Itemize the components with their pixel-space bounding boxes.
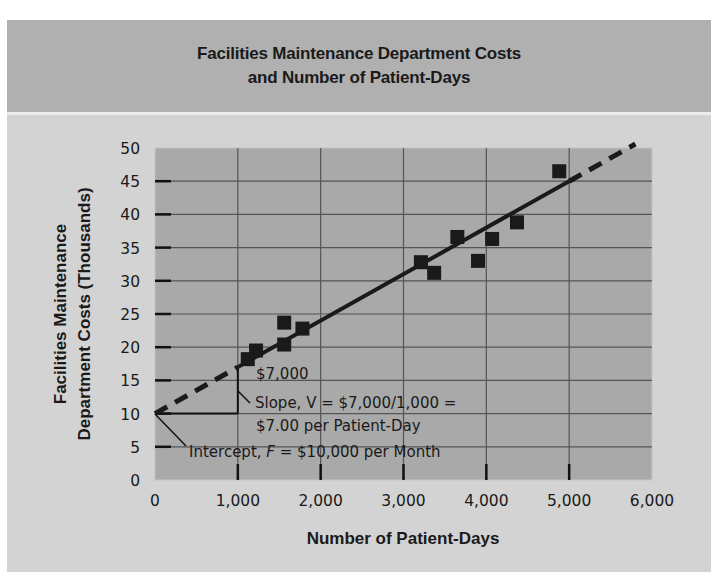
y-tick-label: 50 (120, 140, 140, 158)
data-point-marker (510, 215, 524, 229)
y-tick-label: 0 (130, 472, 140, 490)
x-tick-label: 2,000 (298, 492, 342, 510)
data-point-marker (427, 266, 441, 280)
y-tick-label: 25 (120, 306, 140, 324)
x-axis-tick-labels: 01,0002,0003,0004,0005,0006,000 (150, 492, 674, 510)
data-point-marker (249, 344, 263, 358)
data-point-marker (295, 322, 309, 336)
intercept-label: Intercept, F = $10,000 per Month (189, 443, 441, 461)
x-tick-label: 1,000 (216, 492, 260, 510)
scatter-chart: 05101520253035404550 01,0002,0003,0004,0… (0, 0, 727, 587)
data-point-marker (414, 255, 428, 269)
data-point-marker (450, 230, 464, 244)
y-tick-label: 40 (120, 206, 140, 224)
data-point-marker (552, 164, 566, 178)
x-tick-label: 5,000 (547, 492, 591, 510)
y-tick-label: 35 (120, 240, 140, 258)
data-point-marker (471, 254, 485, 268)
data-point-marker (485, 232, 499, 246)
y-axis-title-line1: Facilities Maintenance (51, 224, 70, 404)
x-tick-label: 4,000 (464, 492, 508, 510)
y-tick-label: 30 (120, 273, 140, 291)
rise-label: $7,000 (256, 365, 309, 383)
y-axis-tick-labels: 05101520253035404550 (120, 140, 140, 490)
y-tick-label: 20 (120, 339, 140, 357)
slope-label-line2: $7.00 per Patient-Day (256, 417, 421, 435)
x-tick-label: 3,000 (381, 492, 425, 510)
x-tick-label: 6,000 (630, 492, 674, 510)
y-tick-label: 45 (120, 173, 140, 191)
y-tick-label: 15 (120, 372, 140, 390)
x-tick-label: 0 (150, 492, 160, 510)
y-axis-title: Facilities Maintenance Department Costs … (51, 187, 94, 440)
x-axis-title: Number of Patient-Days (307, 529, 500, 548)
slope-label-line1: Slope, V = $7,000/1,000 = (255, 394, 456, 412)
data-point-marker (277, 338, 291, 352)
data-point-marker (277, 316, 291, 330)
y-axis-title-line2: Department Costs (Thousands) (75, 187, 94, 440)
y-tick-label: 10 (120, 406, 140, 424)
y-tick-label: 5 (130, 439, 140, 457)
